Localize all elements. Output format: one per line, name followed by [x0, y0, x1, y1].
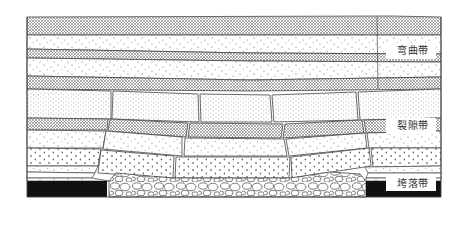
layer-sparse-left — [27, 130, 106, 148]
layer-dense-right — [358, 89, 441, 120]
bending-zone-layers — [27, 16, 441, 91]
label-caving-zone: 垮落带 — [395, 178, 431, 190]
strata-diagram — [0, 0, 467, 226]
layer-sandstone-2 — [27, 58, 441, 80]
caving-thin-left-2 — [27, 172, 95, 178]
layer-dense-block-2 — [200, 94, 272, 122]
layer-dense-block-3 — [272, 92, 358, 122]
layer-plus-right — [371, 148, 441, 167]
layer-cross-block-2 — [188, 123, 283, 138]
caving-thin-left-3 — [27, 178, 109, 181]
fracture-zone-layers — [27, 89, 441, 178]
layer-sparse-block-2 — [184, 138, 287, 156]
layer-dense-left — [27, 89, 111, 119]
label-bending-zone: 弯曲带 — [395, 45, 431, 57]
layer-crosshatch-1 — [27, 16, 441, 35]
caving-thin-right — [365, 166, 441, 173]
layer-dense-block-1 — [112, 91, 199, 122]
coal-seam-left — [27, 181, 107, 197]
layer-plus-left — [27, 148, 101, 166]
layer-plus-block-2 — [175, 157, 290, 178]
label-fracture-zone: 裂隙带 — [395, 120, 431, 132]
layer-cross-left — [27, 118, 108, 130]
